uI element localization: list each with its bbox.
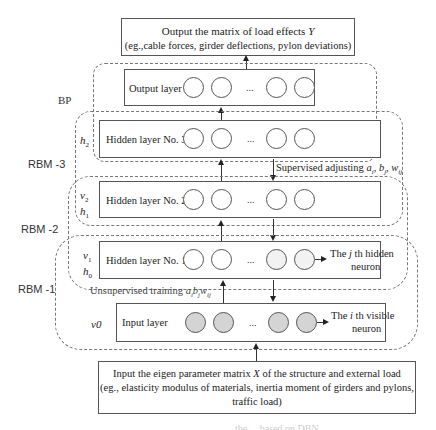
rbm3-label: RBM -3	[28, 158, 65, 170]
hidden3-neuron-4	[294, 128, 315, 149]
h1-symbol: h1	[80, 205, 89, 222]
v1-symbol: v1	[83, 249, 91, 266]
v0-symbol: v0	[91, 318, 101, 330]
unsupervised-training-label: Unsupervised training aibjwij	[90, 284, 211, 302]
output-neuron-3	[266, 77, 287, 98]
hidden-neuron-annotation-line2: neuron	[351, 260, 380, 273]
rbm2-label: RBM -2	[21, 223, 58, 235]
arrow-h2-to-h1-down	[273, 219, 274, 236]
arrow-head-icon	[218, 159, 224, 165]
input-neuron-4	[296, 312, 317, 333]
output-matrix-box: Output the matrix of load effects Y (eg.…	[121, 18, 355, 56]
arrow-supervised-down	[273, 159, 274, 176]
hidden1-neuron-1	[183, 249, 204, 270]
hidden3-neuron-1	[183, 128, 204, 149]
output-neuron-2	[211, 77, 232, 98]
input-neuron-1	[185, 312, 206, 333]
input-neuron-2	[213, 312, 234, 333]
output-box-line1: Output the matrix of load effects Y	[122, 25, 354, 38]
hidden-layer-3-label: Hidden layer No. 3	[106, 133, 186, 146]
hidden1-ellipsis: ...	[247, 254, 255, 265]
hidden1-neuron-3	[266, 249, 287, 270]
hidden3-neuron-3	[266, 128, 287, 149]
h2-symbol: h2	[80, 134, 89, 151]
input-neuron-3	[268, 312, 289, 333]
figure-caption-partial: ... the ... based on DBN	[225, 422, 319, 430]
output-layer-label: Output layer	[129, 82, 182, 95]
hidden2-neuron-2	[211, 189, 232, 210]
arrow-head-icon	[220, 280, 226, 286]
arrow-head-icon	[243, 55, 249, 61]
input-ellipsis: ...	[249, 317, 257, 328]
hidden3-ellipsis: ...	[247, 133, 255, 144]
bp-label: BP	[58, 94, 71, 106]
hidden2-neuron-3	[266, 189, 287, 210]
input-box-line1: Input the eigen parameter matrix X of th…	[99, 367, 415, 380]
hidden2-neuron-4	[294, 189, 315, 210]
v2-symbol: v2	[80, 189, 88, 206]
h0-symbol: h0	[83, 265, 92, 282]
hidden-layer-2-label: Hidden layer No. 2	[106, 194, 186, 207]
input-layer-label: Input layer	[122, 316, 168, 329]
output-neuron-1	[183, 77, 204, 98]
hidden1-neuron-2	[211, 249, 232, 270]
hidden-layer-3-box: Hidden layer No. 3	[99, 120, 381, 158]
arrow-h1-to-input-down	[273, 280, 274, 297]
arrow-head-icon	[323, 319, 329, 325]
hidden-neuron-annotation: The j th hidden	[330, 247, 394, 260]
output-ellipsis: ...	[246, 82, 254, 93]
rbm1-label: RBM -1	[18, 283, 55, 295]
output-box-line2: (eg.,cable forces, girder deflections, p…	[122, 39, 354, 52]
arrow-head-icon	[321, 256, 327, 262]
hidden3-neuron-2	[211, 128, 232, 149]
output-neuron-4	[294, 77, 315, 98]
input-matrix-box: Input the eigen parameter matrix X of th…	[98, 361, 416, 414]
arrow-head-icon	[270, 296, 276, 302]
visible-neuron-annotation-line2: neuron	[352, 322, 381, 335]
input-box-line2: (eg., elasticity modulus of materials, i…	[99, 381, 415, 394]
arrow-head-icon	[253, 343, 259, 349]
arrow-head-icon	[218, 220, 224, 226]
hidden-layer-1-label: Hidden layer No. 1	[106, 254, 186, 267]
hidden-layer-2-box: Hidden layer No. 2	[99, 181, 381, 218]
hidden2-ellipsis: ...	[247, 194, 255, 205]
visible-neuron-annotation: The i th visible	[331, 309, 394, 322]
arrow-input-to-h1	[223, 284, 224, 303]
hidden2-neuron-1	[183, 189, 204, 210]
input-box-line3: traffic load)	[99, 395, 415, 408]
hidden1-neuron-4	[294, 249, 315, 270]
